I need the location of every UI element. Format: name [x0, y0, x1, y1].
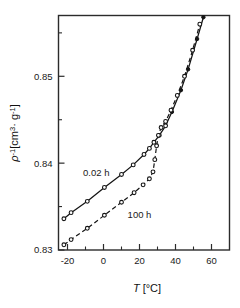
data-point — [155, 144, 159, 148]
data-point — [195, 37, 198, 40]
data-point — [202, 16, 205, 19]
data-point — [152, 140, 156, 144]
series-label-0-02-h: 0.02 h — [83, 167, 109, 178]
x-tick-label: -20 — [61, 255, 75, 266]
data-point — [85, 199, 89, 203]
data-point — [164, 124, 168, 128]
data-point — [120, 173, 124, 177]
data-point — [151, 170, 155, 174]
data-point — [141, 183, 145, 187]
data-point — [159, 126, 163, 130]
x-axis-title: T [°C] — [133, 282, 161, 294]
chart-figure: -200204060 0.830.840.85 0.02 h100 h T [°… — [0, 0, 240, 308]
data-point — [175, 94, 179, 98]
data-point — [62, 243, 66, 247]
data-point — [183, 74, 187, 78]
data-point — [157, 133, 161, 137]
data-point — [153, 158, 157, 162]
y-tick-label: 0.85 — [34, 71, 53, 82]
specific-volume-temperature-chart: -200204060 0.830.840.85 0.02 h100 h T [°… — [0, 0, 240, 308]
data-point — [131, 163, 135, 167]
y-tick-label: 0.83 — [34, 244, 53, 255]
chart-background — [0, 0, 240, 308]
x-tick-label: 40 — [170, 255, 181, 266]
data-point — [179, 88, 182, 91]
data-point — [148, 146, 152, 150]
data-point — [69, 211, 73, 215]
data-point — [132, 191, 136, 195]
x-tick-label: 20 — [134, 255, 145, 266]
data-point — [191, 48, 195, 52]
y-tick-label: 0.84 — [34, 158, 53, 169]
data-point — [69, 238, 73, 242]
data-point — [142, 153, 146, 157]
data-point — [120, 200, 124, 204]
data-point — [103, 186, 107, 190]
data-point — [186, 68, 189, 71]
data-point — [103, 213, 107, 217]
data-point — [62, 217, 66, 221]
data-point — [85, 226, 89, 230]
data-point — [198, 22, 202, 26]
data-point — [169, 108, 173, 112]
x-tick-label: 60 — [206, 255, 217, 266]
series-label-100-h: 100 h — [128, 209, 152, 220]
data-point — [148, 177, 152, 181]
x-tick-label: 0 — [101, 255, 106, 266]
data-point — [164, 120, 168, 124]
